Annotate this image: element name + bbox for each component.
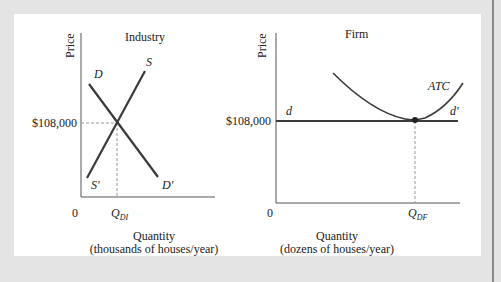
firm-demand-label: d xyxy=(286,104,293,118)
industry-equilibrium-quantity: QDI xyxy=(111,206,128,222)
firm-atc-label: ATC xyxy=(427,79,451,93)
industry-price-tick: $108,000 xyxy=(32,116,77,130)
firm-x-axis-sublabel: (dozens of houses/year) xyxy=(280,242,394,256)
industry-demand-end-label: D' xyxy=(161,178,174,192)
firm-x-axis-label: Quantity xyxy=(316,229,358,243)
figure-canvas: Price Industry $108,000 D S S' D' 0 QDI … xyxy=(0,0,501,282)
industry-price-axis-label: Price xyxy=(63,33,77,58)
firm-demand-end-label: d' xyxy=(450,104,459,118)
industry-x-axis-sublabel: (thousands of houses/year) xyxy=(90,242,219,256)
industry-demand-curve xyxy=(89,84,158,177)
industry-x-axis-label: Quantity xyxy=(133,229,175,243)
industry-title: Industry xyxy=(125,30,165,44)
firm-title: Firm xyxy=(345,27,369,41)
industry-supply-curve xyxy=(87,71,145,178)
firm-price-tick: $108,000 xyxy=(226,114,271,128)
industry-demand-label: D xyxy=(93,67,103,81)
industry-chart: Price Industry $108,000 D S S' D' 0 QDI … xyxy=(32,30,218,256)
firm-price-axis-label: Price xyxy=(255,33,269,58)
firm-origin-label: 0 xyxy=(267,206,273,220)
firm-tangency-point xyxy=(412,117,418,123)
firm-chart: Price Firm $108,000 d d' ATC 0 QDF Quant… xyxy=(226,27,463,256)
industry-supply-end-label: S' xyxy=(91,178,100,192)
industry-origin-label: 0 xyxy=(72,206,78,220)
industry-supply-label: S xyxy=(146,55,152,69)
firm-equilibrium-quantity: QDF xyxy=(408,206,427,222)
